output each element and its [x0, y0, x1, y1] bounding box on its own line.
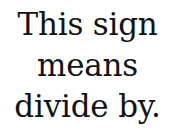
caption-line-3: divide by. — [0, 86, 175, 127]
sign-image: This sign means divide by. — [0, 0, 175, 137]
caption-line-2: means — [0, 45, 175, 86]
caption-line-1: This sign — [0, 4, 175, 45]
